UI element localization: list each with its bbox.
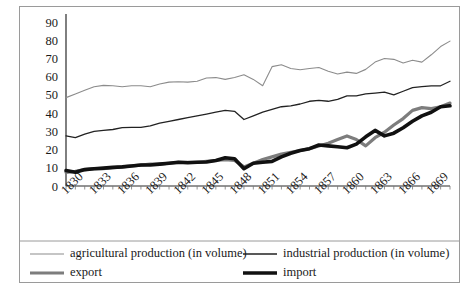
x-axis-tick-label: 1854 (283, 169, 311, 197)
x-axis-tick-label: 1863 (367, 170, 395, 198)
x-axis-tick-label: 1830 (58, 170, 86, 198)
x-axis-tick-label: 1851 (255, 170, 283, 198)
y-axis-tick-label: 20 (46, 143, 59, 157)
series-line-industrial (66, 81, 450, 137)
y-axis-tick-label: 50 (46, 88, 59, 102)
x-axis-tick-label: 1857 (311, 170, 339, 198)
x-axis-tick-label: 1866 (395, 170, 423, 198)
y-axis-tick-label: 80 (46, 34, 59, 48)
x-axis-tick-label: 1860 (339, 170, 367, 198)
x-axis-tick-label: 1833 (86, 170, 114, 198)
x-axis-tick-label: 1836 (114, 170, 142, 198)
legend-label: industrial production (in volume) (283, 246, 449, 260)
x-axis-tick-label: 1839 (143, 170, 171, 198)
y-axis-tick-label: 0 (52, 180, 58, 194)
plot-area-wrapper: 0102030405060708090183018331836183918421… (0, 0, 471, 291)
y-axis-tick-label: 10 (46, 161, 59, 175)
y-axis-tick-label: 90 (46, 16, 59, 30)
y-axis-tick-label: 60 (46, 70, 59, 84)
series-line-import (66, 106, 450, 173)
x-axis-tick-label: 1848 (227, 170, 255, 198)
series-line-agricultural (66, 41, 450, 97)
legend-label: export (70, 265, 102, 279)
legend-label: import (283, 265, 317, 279)
line-chart: 0102030405060708090183018331836183918421… (0, 0, 471, 291)
y-axis-tick-label: 30 (46, 125, 59, 139)
x-axis-tick-label: 1845 (199, 170, 227, 198)
y-axis-tick-label: 70 (46, 52, 59, 66)
chart-figure: 0102030405060708090183018331836183918421… (0, 0, 471, 291)
y-axis-tick-label: 40 (46, 107, 59, 121)
legend-label: agricultural production (in volume) (70, 246, 247, 260)
x-axis-tick-label: 1842 (171, 170, 199, 198)
x-axis-tick-label: 1869 (423, 170, 451, 198)
